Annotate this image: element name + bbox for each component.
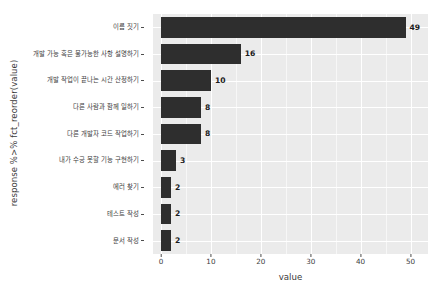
y-axis-tick-2: 개발 작업이 끝나는 시간 산정하기: [26, 67, 148, 94]
y-axis-tick-7: 테스트 작성: [26, 201, 148, 228]
y-axis-tickmark: [141, 80, 144, 81]
bar-row: 16: [153, 44, 255, 65]
bar-chart: response %>% fct_reorder(value) 이름 짓기개발 …: [0, 0, 440, 304]
bar: [161, 17, 406, 38]
y-axis-tick-label: 에러 찾기: [113, 184, 139, 190]
bar-value-label: 2: [175, 184, 180, 192]
bar-row: 2: [153, 204, 180, 225]
y-axis-tick-label: 내가 수긍 못할 기능 구현하기: [59, 157, 139, 163]
plot-panel: 491610883222: [153, 14, 428, 254]
bar-value-label: 2: [175, 237, 180, 245]
x-axis-tick-label: 40: [356, 258, 365, 265]
bar-value-label: 8: [205, 130, 210, 138]
x-axis-tick-4: 40: [356, 254, 365, 265]
x-axis-tick-label: 50: [406, 258, 415, 265]
bar-row: 8: [153, 97, 210, 118]
x-axis-tick-5: 50: [406, 254, 415, 265]
x-axis-tick-labels: 01020304050: [153, 254, 428, 268]
y-axis-tick-label: 다른 사람과 함께 일하기: [73, 104, 139, 110]
bars-layer: 491610883222: [153, 14, 428, 254]
y-axis-tickmark: [141, 240, 144, 241]
bar-value-label: 2: [175, 210, 180, 218]
y-axis-tickmark: [141, 107, 144, 108]
bar-row: 2: [153, 230, 180, 251]
x-axis-tick-3: 30: [306, 254, 315, 265]
y-axis-tickmark: [141, 134, 144, 135]
bar-value-label: 10: [215, 77, 226, 85]
bar: [161, 177, 171, 198]
y-axis-tickmark: [141, 54, 144, 55]
bar: [161, 204, 171, 225]
y-axis-title: response %>% fct_reorder(value): [0, 0, 28, 266]
y-axis-tick-6: 에러 찾기: [26, 174, 148, 201]
y-axis-tick-label: 다른 개발자 코드 작업하기: [67, 131, 139, 137]
x-axis-tick-1: 10: [206, 254, 215, 265]
y-axis-tick-4: 다른 개발자 코드 작업하기: [26, 121, 148, 148]
y-axis-tick-label: 개발 작업이 끝나는 시간 산정하기: [47, 77, 139, 83]
bar-value-label: 8: [205, 104, 210, 112]
x-axis-tick-label: 10: [206, 258, 215, 265]
x-axis-tick-label: 30: [306, 258, 315, 265]
bar-row: 2: [153, 177, 180, 198]
x-axis-tick-0: 0: [159, 254, 164, 265]
bar-value-label: 16: [245, 50, 256, 58]
y-axis-tick-8: 문서 작성: [26, 227, 148, 254]
bar: [161, 150, 176, 171]
bar-row: 49: [153, 17, 420, 38]
bar-row: 10: [153, 70, 225, 91]
bar-value-label: 49: [410, 24, 421, 32]
bar: [161, 124, 201, 145]
x-axis-tick-label: 0: [159, 258, 164, 265]
bar-value-label: 3: [180, 157, 185, 165]
bar: [161, 70, 211, 91]
bar-row: 3: [153, 150, 185, 171]
y-axis-title-label: response %>% fct_reorder(value): [9, 60, 19, 207]
x-axis-tick-label: 20: [256, 258, 265, 265]
y-axis-tick-label: 이름 짓기: [113, 24, 139, 30]
y-axis-tick-3: 다른 사람과 함께 일하기: [26, 94, 148, 121]
y-axis-tick-0: 이름 짓기: [26, 14, 148, 41]
y-axis-tickmark: [141, 187, 144, 188]
y-axis-tick-labels: 이름 짓기개발 가능 혹은 불가능한 사항 설명하기개발 작업이 끝나는 시간 …: [26, 14, 148, 254]
y-axis-tick-label: 개발 가능 혹은 불가능한 사항 설명하기: [33, 51, 139, 57]
x-axis-title: value: [153, 272, 428, 282]
y-axis-tick-label: 문서 작성: [113, 238, 139, 244]
bar: [161, 44, 241, 65]
y-axis-tickmark: [141, 27, 144, 28]
y-axis-tick-label: 테스트 작성: [107, 211, 139, 217]
y-axis-tickmark: [141, 214, 144, 215]
bar: [161, 97, 201, 118]
y-axis-tickmark: [141, 160, 144, 161]
y-axis-tick-1: 개발 가능 혹은 불가능한 사항 설명하기: [26, 41, 148, 68]
bar-row: 8: [153, 124, 210, 145]
bar: [161, 230, 171, 251]
y-axis-tick-5: 내가 수긍 못할 기능 구현하기: [26, 147, 148, 174]
x-axis-tick-2: 20: [256, 254, 265, 265]
